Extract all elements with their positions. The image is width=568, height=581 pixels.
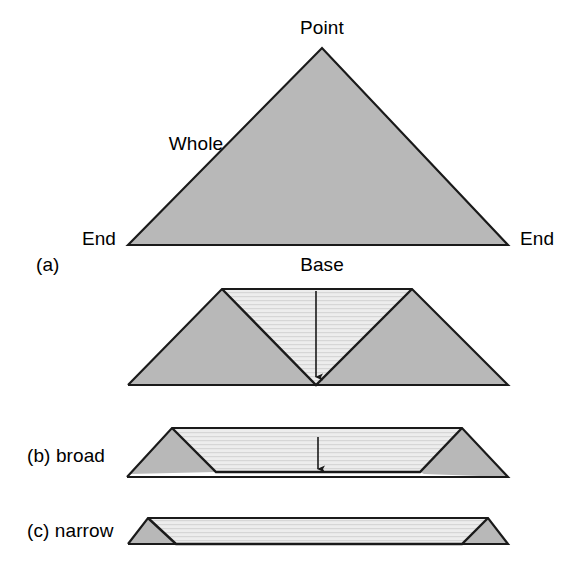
label-panel-c: (c) narrow bbox=[27, 521, 114, 540]
label-end-right: End bbox=[520, 229, 554, 248]
narrow-light-body bbox=[148, 518, 488, 544]
panel-c-group bbox=[128, 518, 508, 544]
broad-light-body bbox=[172, 428, 462, 472]
panel-middle-group bbox=[128, 289, 508, 385]
label-base: Base bbox=[300, 255, 344, 274]
figure-diagram bbox=[0, 0, 568, 581]
label-end-left: End bbox=[82, 229, 116, 248]
figure-container: Point Whole End End Base (a) (b) broad (… bbox=[0, 0, 568, 581]
label-point: Point bbox=[300, 18, 344, 37]
label-whole: Whole bbox=[169, 134, 223, 153]
label-panel-b: (b) broad bbox=[27, 446, 105, 465]
panel-b-group bbox=[127, 428, 508, 477]
label-panel-a: (a) bbox=[36, 255, 60, 274]
